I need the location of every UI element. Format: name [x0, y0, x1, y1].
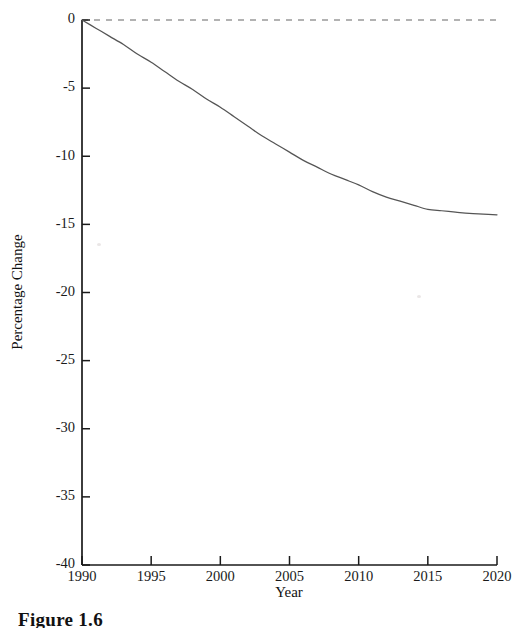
- x-tick-label: 1990: [68, 568, 97, 584]
- line-chart: 0-5-10-15-20-25-30-35-40 199019952000200…: [0, 0, 521, 600]
- chart-background: [0, 0, 521, 600]
- y-tick-label: 0: [68, 10, 75, 26]
- y-axis-title: Percentage Change: [9, 234, 25, 350]
- y-tick-label: -10: [56, 147, 75, 163]
- scan-speckle: [417, 295, 421, 298]
- y-tick-label: -35: [56, 487, 75, 503]
- scan-speckle: [97, 243, 101, 246]
- y-tick-label: -30: [56, 419, 75, 435]
- x-tick-label: 2015: [413, 568, 442, 584]
- y-tick-label: -25: [56, 351, 75, 367]
- y-tick-label: -5: [63, 78, 75, 94]
- figure-container: 0-5-10-15-20-25-30-35-40 199019952000200…: [0, 0, 521, 628]
- x-tick-label: 2020: [483, 568, 512, 584]
- x-tick-label: 1995: [137, 568, 166, 584]
- y-tick-label: -20: [56, 283, 75, 299]
- figure-caption: Figure 1.6: [18, 609, 103, 628]
- x-tick-label: 2000: [206, 568, 235, 584]
- x-tick-label: 2005: [275, 568, 304, 584]
- x-axis-title: Year: [275, 584, 303, 600]
- x-tick-label: 2010: [344, 568, 373, 584]
- y-tick-label: -15: [56, 215, 75, 231]
